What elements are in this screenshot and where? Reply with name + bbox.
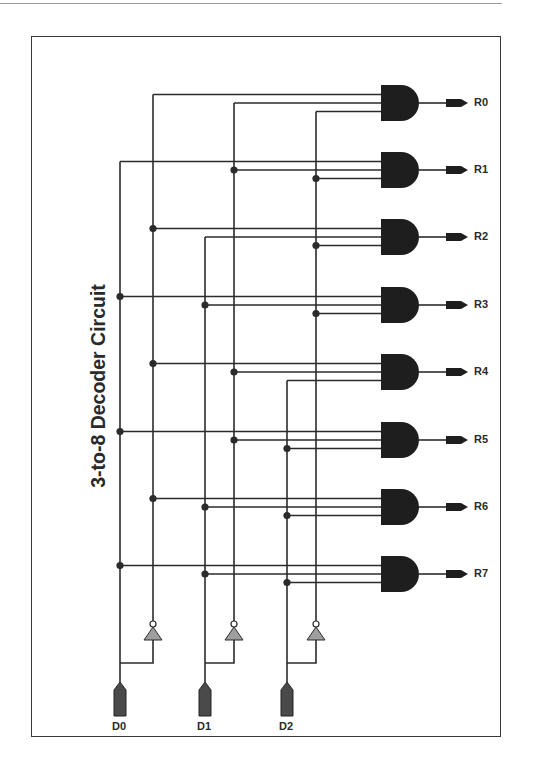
- wire-branch-d0: [120, 640, 153, 663]
- output-pin-icon: [446, 233, 468, 241]
- junction-dot: [149, 360, 156, 367]
- inverter-icon: [225, 627, 243, 640]
- output-pin-icon: [446, 570, 468, 578]
- junction-dot: [201, 570, 208, 577]
- junction-dot: [312, 242, 319, 249]
- output-label-r2: R2: [474, 230, 488, 242]
- inverter-bubble-icon: [231, 621, 237, 627]
- junction-dot: [312, 175, 319, 182]
- output-pin-icon: [446, 301, 468, 309]
- inverter-bubble-icon: [313, 621, 319, 627]
- output-label-r0: R0: [474, 96, 488, 108]
- and-gate-icon: [381, 85, 419, 121]
- and-gate-icon: [381, 219, 419, 255]
- output-pin-icon: [446, 503, 468, 511]
- and-gate-icon: [381, 152, 419, 188]
- junction-dot: [283, 445, 290, 452]
- wire-branch-d2: [287, 640, 316, 663]
- junction-dot: [116, 562, 123, 569]
- output-label-r3: R3: [474, 298, 488, 310]
- input-label-d0: D0: [112, 720, 126, 732]
- inverter-icon: [307, 627, 325, 640]
- decoder-circuit: [0, 0, 552, 762]
- output-pin-icon: [446, 99, 468, 107]
- output-pin-icon: [446, 436, 468, 444]
- junction-dot: [116, 293, 123, 300]
- output-label-r6: R6: [474, 500, 488, 512]
- input-label-d2: D2: [279, 720, 293, 732]
- output-label-r5: R5: [474, 433, 488, 445]
- junction-dot: [230, 166, 237, 173]
- inverter-bubble-icon: [150, 621, 156, 627]
- output-label-r7: R7: [474, 567, 488, 579]
- junction-dot: [116, 428, 123, 435]
- output-pin-icon: [446, 368, 468, 376]
- input-pin-icon: [199, 682, 211, 716]
- junction-dot: [283, 579, 290, 586]
- and-gate-icon: [381, 556, 419, 592]
- input-pin-icon: [281, 682, 293, 716]
- and-gate-icon: [381, 422, 419, 458]
- output-label-r1: R1: [474, 163, 488, 175]
- output-pin-icon: [446, 166, 468, 174]
- inverter-icon: [144, 627, 162, 640]
- junction-dot: [149, 225, 156, 232]
- junction-dot: [312, 310, 319, 317]
- junction-dot: [149, 495, 156, 502]
- output-label-r4: R4: [474, 365, 488, 377]
- junction-dot: [201, 503, 208, 510]
- junction-dot: [283, 512, 290, 519]
- wire-branch-d1: [205, 640, 234, 663]
- junction-dot: [201, 301, 208, 308]
- input-pin-icon: [114, 682, 126, 716]
- input-label-d1: D1: [197, 720, 211, 732]
- and-gate-icon: [381, 489, 419, 525]
- and-gate-icon: [381, 354, 419, 390]
- junction-dot: [230, 368, 237, 375]
- junction-dot: [230, 436, 237, 443]
- and-gate-icon: [381, 287, 419, 323]
